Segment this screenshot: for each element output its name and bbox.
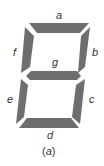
label-e: e [7, 94, 13, 105]
label-b: b [92, 47, 98, 58]
segment-d [19, 118, 79, 128]
segment-g [26, 71, 81, 80]
label-f: f [13, 47, 16, 58]
label-g: g [52, 57, 58, 68]
segment-f [21, 27, 34, 73]
segment-b [78, 27, 90, 73]
figure-caption: (a) [42, 146, 55, 157]
segment-c [72, 79, 85, 124]
segment-e [16, 79, 28, 124]
label-d: d [47, 130, 53, 141]
seven-segment-display [0, 0, 104, 166]
label-c: c [89, 94, 95, 105]
label-a: a [56, 10, 62, 21]
segment-a [29, 23, 89, 33]
